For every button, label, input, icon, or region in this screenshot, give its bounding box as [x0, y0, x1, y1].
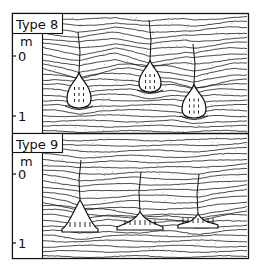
type8-label: Type 8: [15, 17, 58, 32]
type9-label: Type 9: [15, 137, 58, 152]
type9-tick-1-label: 1: [18, 236, 26, 251]
figure-canvas: Type 8 Type 9 m 0 1 m 0 1: [0, 0, 261, 269]
type9-lamination-lines: [43, 137, 247, 257]
type8-unit: m: [20, 34, 33, 49]
type8-tick-1-label: 1: [18, 109, 26, 124]
type9-tick-0-label: 0: [18, 167, 26, 182]
type8-tick-0-label: 0: [18, 49, 26, 64]
